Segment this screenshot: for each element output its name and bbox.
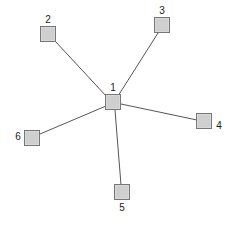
node-label-3: 3 [159, 6, 165, 16]
node-label-6: 6 [15, 132, 21, 142]
node-1[interactable] [105, 94, 121, 110]
node-6[interactable] [24, 130, 40, 146]
node-4[interactable] [196, 113, 212, 129]
node-label-5: 5 [119, 203, 125, 213]
node-label-1: 1 [110, 83, 116, 93]
edge-1-6 [40, 106, 106, 134]
edge-1-3 [118, 33, 158, 96]
node-label-4: 4 [216, 121, 222, 131]
node-5[interactable] [114, 184, 130, 200]
edge-1-5 [115, 110, 121, 185]
node-2[interactable] [40, 26, 56, 42]
edge-1-2 [55, 41, 107, 97]
edge-1-4 [121, 104, 197, 120]
node-3[interactable] [154, 17, 170, 33]
node-label-2: 2 [45, 15, 51, 25]
diagram-canvas: 123456 [0, 0, 230, 225]
